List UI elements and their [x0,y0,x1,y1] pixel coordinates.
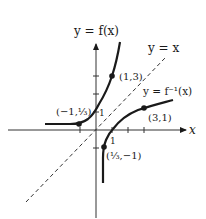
tick-x-1-label: 1 [110,136,116,146]
point-label-3-1: (3,1) [148,112,172,123]
point-1-3 [109,73,115,79]
point-3-1 [141,105,147,111]
function-inverse-diagram: y = f(x) y = x y = f⁻¹(x) x 1 1 (1,3) (−… [0,0,206,219]
tick-y-1-label: 1 [99,108,105,118]
point-neg1-third [76,121,82,127]
f-curve-label: y = f(x) [73,24,119,38]
inverse-curve-label: y = f⁻¹(x) [142,85,192,97]
point-label-1-3: (1,3) [119,71,143,82]
x-axis-label: x [189,123,196,137]
point-label-neg1-third: (−1,⅓) [56,106,92,117]
identity-line-label: y = x [147,41,179,55]
point-label-third-neg1: (⅓,−1) [106,150,142,161]
point-third-neg1 [101,144,107,150]
